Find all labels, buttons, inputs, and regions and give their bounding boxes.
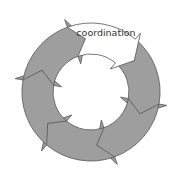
segment-label-coordination: coordination [76,27,135,38]
cycle-diagram: coordination [0,0,186,186]
